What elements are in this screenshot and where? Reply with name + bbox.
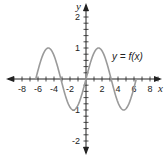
y-tick-label: 2: [75, 12, 80, 22]
x-tick-label: 2: [99, 84, 104, 94]
x-tick-label: -2: [66, 84, 74, 94]
y-axis-bottom-arrow-icon: [83, 147, 89, 155]
x-tick-label: 4: [115, 84, 120, 94]
y-tick-label: 1: [75, 43, 80, 53]
y-tick-label: -2: [72, 136, 80, 146]
x-tick-label: -6: [34, 84, 42, 94]
x-tick-label: -4: [50, 84, 58, 94]
curve-label: y = f(x): [111, 51, 143, 62]
function-graph: -8 -6 -4 -2 2 4 6 8 2 1 -1 -2 x y y = f(…: [0, 0, 167, 166]
x-axis-left-arrow-icon: [6, 76, 14, 82]
y-axis-top-arrow-icon: [83, 3, 89, 11]
x-axis: [6, 76, 162, 82]
x-tick-label: -8: [18, 84, 26, 94]
x-axis-label: x: [157, 82, 163, 94]
x-tick-label: 8: [147, 84, 152, 94]
y-axis-label: y: [75, 0, 81, 12]
